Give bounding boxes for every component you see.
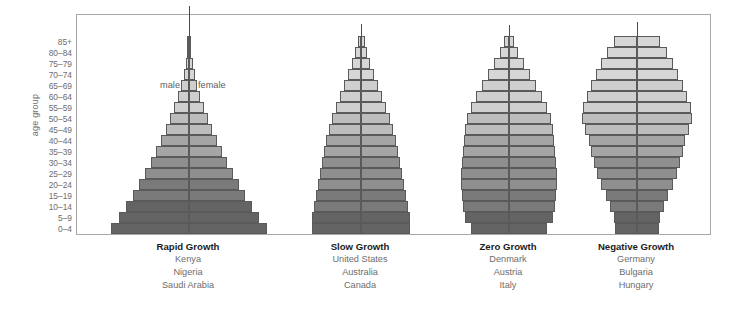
- bar-male: [596, 69, 637, 80]
- pyramid-age-row: [310, 124, 412, 135]
- bar-female: [637, 91, 687, 102]
- bar-female: [361, 157, 400, 168]
- bar-male: [494, 58, 509, 69]
- pyramid-age-row: [459, 212, 559, 223]
- bar-female: [361, 179, 404, 190]
- bar-male: [482, 80, 509, 91]
- pyramid-age-row: [459, 47, 559, 58]
- bar-female: [637, 146, 683, 157]
- bar-male: [488, 69, 509, 80]
- pyramid-age-row: [109, 102, 269, 113]
- bar-female: [509, 36, 514, 47]
- bar-male: [589, 135, 637, 146]
- pyramid-age-row: [459, 80, 559, 91]
- bar-male: [126, 201, 189, 212]
- population-pyramid-figure: age group 85+80–8475–7970–7465–6960–6455…: [0, 0, 738, 311]
- bar-male: [465, 212, 509, 223]
- bar-male: [178, 91, 189, 102]
- bar-female: [361, 69, 374, 80]
- y-axis-tick-label: 15–19: [24, 192, 72, 200]
- bar-male: [322, 157, 361, 168]
- bar-male: [591, 80, 637, 91]
- y-axis-tick-label: 10–14: [24, 203, 72, 211]
- pyramid-age-row: [459, 69, 559, 80]
- bar-male: [601, 58, 637, 69]
- y-axis-tick-label: 85+: [24, 38, 72, 46]
- bar-male: [344, 80, 361, 91]
- bar-male: [463, 201, 509, 212]
- pyramid-age-row: [459, 190, 559, 201]
- bar-male: [464, 135, 509, 146]
- pyramid-age-row: [310, 223, 412, 234]
- bar-male: [119, 212, 189, 223]
- pyramid-negative-growth: [580, 36, 694, 234]
- y-axis-tick-label: 30–34: [24, 159, 72, 167]
- pyramid-age-row: [580, 91, 694, 102]
- bar-male: [585, 124, 637, 135]
- pyramid-age-row: [580, 124, 694, 135]
- bar-female: [189, 201, 252, 212]
- bar-female: [509, 201, 555, 212]
- bar-male: [156, 146, 189, 157]
- pyramid-age-row: [459, 146, 559, 157]
- pyramid-age-row: [109, 36, 269, 47]
- pyramid-age-row: [109, 135, 269, 146]
- pyramid-age-row: [580, 179, 694, 190]
- bar-male: [462, 190, 509, 201]
- pyramid-slow-growth: [310, 36, 412, 234]
- bar-female: [361, 135, 396, 146]
- pyramid-age-row: [310, 179, 412, 190]
- bar-female: [509, 47, 518, 58]
- bar-female: [509, 179, 557, 190]
- pyramid-age-row: [310, 80, 412, 91]
- pyramid-age-row: [580, 80, 694, 91]
- caption-title: Rapid Growth: [108, 240, 268, 253]
- y-axis-tick-label: 5–9: [24, 214, 72, 222]
- pyramid-age-row: [109, 179, 269, 190]
- plot-area: malefemale: [76, 14, 711, 235]
- bar-male: [332, 113, 361, 124]
- bar-male: [326, 135, 361, 146]
- bar-female: [361, 124, 393, 135]
- pyramid-age-row: [459, 179, 559, 190]
- pyramid-age-row: [109, 168, 269, 179]
- pyramid-age-row: [109, 69, 269, 80]
- bar-female: [509, 168, 557, 179]
- bar-male: [465, 124, 509, 135]
- bar-male: [174, 102, 189, 113]
- pyramid-age-row: [310, 91, 412, 102]
- bar-female: [189, 179, 239, 190]
- y-axis-tick-label: 45–49: [24, 126, 72, 134]
- pyramid-age-row: [310, 168, 412, 179]
- bar-male: [139, 179, 189, 190]
- pyramid-age-row: [580, 146, 694, 157]
- pyramid-age-row: [109, 113, 269, 124]
- bar-female: [509, 58, 524, 69]
- bar-female: [361, 58, 370, 69]
- caption-country: Saudi Arabia: [108, 279, 268, 292]
- bar-male: [614, 36, 637, 47]
- bar-male: [591, 146, 637, 157]
- bar-male: [329, 124, 361, 135]
- bar-female: [637, 223, 659, 234]
- bar-male: [145, 168, 189, 179]
- male-label: male: [160, 80, 180, 90]
- bar-male: [471, 223, 509, 234]
- pyramid-age-row: [459, 223, 559, 234]
- pyramid-age-row: [580, 113, 694, 124]
- bar-female: [361, 36, 365, 47]
- bar-female: [637, 124, 689, 135]
- bar-male: [594, 157, 637, 168]
- pyramid-age-row: [459, 124, 559, 135]
- bar-female: [189, 212, 259, 223]
- bar-male: [471, 102, 509, 113]
- bar-male: [312, 212, 361, 223]
- y-axis-tick-label: 35–39: [24, 148, 72, 156]
- bar-male: [166, 124, 189, 135]
- bar-female: [637, 168, 677, 179]
- pyramid-age-row: [459, 36, 559, 47]
- pyramid-rapid-growth: malefemale: [109, 36, 269, 234]
- bar-male: [587, 91, 637, 102]
- bar-male: [133, 190, 189, 201]
- pyramid-age-row: [580, 47, 694, 58]
